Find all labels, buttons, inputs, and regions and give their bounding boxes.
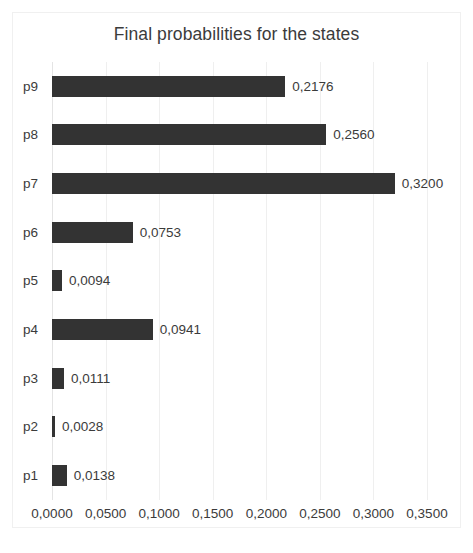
category-label-p4: p4 <box>0 305 46 354</box>
bar-value-label: 0,0138 <box>74 469 115 483</box>
x-tick-label: 0,2500 <box>299 506 340 521</box>
bar-row[interactable]: 0,0941 <box>52 305 427 354</box>
bar-row[interactable]: 0,3200 <box>52 159 427 208</box>
category-axis: p9p8p7p6p5p4p3p2p1 <box>0 62 46 500</box>
category-label-p6: p6 <box>0 208 46 257</box>
bar[interactable] <box>52 368 64 389</box>
bar[interactable] <box>52 222 133 243</box>
bar[interactable] <box>52 173 395 194</box>
bar-row[interactable]: 0,0138 <box>52 451 427 500</box>
value-axis: 0,00000,05000,10000,15000,20000,25000,30… <box>52 506 427 528</box>
bar-value-label: 0,0094 <box>69 274 110 288</box>
category-label-p8: p8 <box>0 111 46 160</box>
bar-row[interactable]: 0,0028 <box>52 403 427 452</box>
bar[interactable] <box>52 124 326 145</box>
bar-value-label: 0,2560 <box>333 128 374 142</box>
x-tick-label: 0,1500 <box>192 506 233 521</box>
bar-row[interactable]: 0,0094 <box>52 257 427 306</box>
bar-value-label: 0,0028 <box>62 420 103 434</box>
x-tick-label: 0,3000 <box>353 506 394 521</box>
bar[interactable] <box>52 319 153 340</box>
bar-value-label: 0,0941 <box>160 323 201 337</box>
category-label-p9: p9 <box>0 62 46 111</box>
x-tick-label: 0,0000 <box>31 506 72 521</box>
x-tick-label: 0,3500 <box>406 506 447 521</box>
bar-value-label: 0,0111 <box>71 372 110 386</box>
category-label-p7: p7 <box>0 159 46 208</box>
category-label-p2: p2 <box>0 403 46 452</box>
plot-area: 0,21760,25600,32000,07530,00940,09410,01… <box>52 62 427 500</box>
bar-value-label: 0,2176 <box>292 80 333 94</box>
bar-value-label: 0,0753 <box>140 226 181 240</box>
category-label-p3: p3 <box>0 354 46 403</box>
x-tick-label: 0,1000 <box>138 506 179 521</box>
bar-row[interactable]: 0,0753 <box>52 208 427 257</box>
bar-row[interactable]: 0,2176 <box>52 62 427 111</box>
bars-layer: 0,21760,25600,32000,07530,00940,09410,01… <box>52 62 427 500</box>
bar-row[interactable]: 0,0111 <box>52 354 427 403</box>
bar-row[interactable]: 0,2560 <box>52 111 427 160</box>
x-tick-label: 0,0500 <box>85 506 126 521</box>
category-label-p5: p5 <box>0 257 46 306</box>
bar[interactable] <box>52 270 62 291</box>
bar[interactable] <box>52 416 55 437</box>
x-tick-label: 0,2000 <box>246 506 287 521</box>
bar[interactable] <box>52 76 285 97</box>
chart-container: Final probabilities for the states p9p8p… <box>0 0 473 553</box>
bar[interactable] <box>52 465 67 486</box>
category-label-p1: p1 <box>0 451 46 500</box>
chart-title: Final probabilities for the states <box>0 24 473 45</box>
bar-value-label: 0,3200 <box>402 177 443 191</box>
